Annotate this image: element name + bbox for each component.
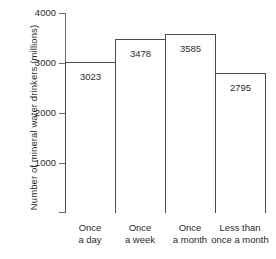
bar-value-label: 3478: [116, 49, 165, 59]
bar-value-label: 3023: [66, 72, 115, 82]
bar-value-label: 2795: [216, 83, 265, 93]
bar-value-label: 3585: [166, 44, 215, 54]
bar-chart: Number of mineral water drinkers (millio…: [0, 0, 276, 259]
x-category-label-line: Less than: [205, 222, 275, 234]
y-tick-label: 2000: [14, 108, 56, 118]
bar: 2795: [215, 73, 266, 213]
y-tick-label: 1000: [14, 158, 56, 168]
bar: 3478: [115, 39, 166, 213]
x-category-label: Less thanonce a month: [205, 222, 275, 245]
bar: 3585: [165, 34, 216, 213]
y-tick-label: 4000: [14, 8, 56, 18]
y-tick-label: 3000: [14, 58, 56, 68]
plot-area: 3023347835852795: [65, 13, 265, 213]
x-category-label-line: once a month: [205, 234, 275, 246]
bar: 3023: [65, 62, 116, 213]
